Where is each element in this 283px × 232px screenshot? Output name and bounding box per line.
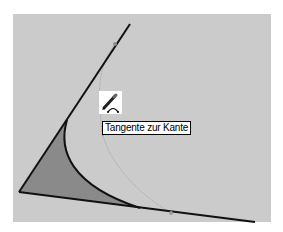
pencil-arc-cursor-icon: [99, 91, 122, 114]
upper-midpoint-marker-icon: [113, 42, 117, 46]
lower-midpoint-marker-icon: [169, 211, 173, 215]
inference-tooltip: Tangente zur Kante: [102, 121, 191, 135]
drawing-canvas[interactable]: [0, 0, 283, 232]
